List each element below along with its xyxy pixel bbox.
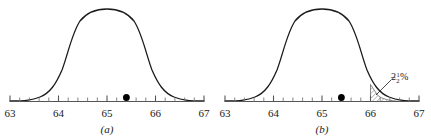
panel-a-caption: (a)	[101, 123, 114, 136]
x-tick-label-63-a: 63	[5, 107, 17, 119]
x-tick-label-63-b: 63	[220, 107, 232, 119]
annotation-label-b: 212%	[391, 71, 408, 84]
x-axis-a	[10, 96, 204, 102]
panel-b-caption: (b)	[316, 123, 329, 136]
x-tick-label-65-a: 65	[102, 107, 114, 119]
annotation-leader-line-b	[376, 80, 391, 95]
panel-b: 212% 63 64 65 66 67 (b)	[215, 0, 430, 137]
x-tick-label-66-b: 66	[365, 107, 377, 119]
normal-curve-a	[10, 9, 204, 101]
x-axis-b	[225, 96, 419, 102]
annotation-fraction-denominator: 2	[396, 77, 399, 84]
panel-a-plot: 63 64 65 66 67 (a)	[0, 0, 215, 137]
statistics-figure: 63 64 65 66 67 (a)	[0, 0, 431, 137]
x-tick-label-64-a: 64	[53, 107, 65, 119]
shaded-tail-region-b	[371, 85, 404, 102]
panel-b-plot: 212% 63 64 65 66 67 (b)	[215, 0, 431, 137]
x-tick-label-65-b: 65	[317, 107, 329, 119]
normal-curve-b	[225, 9, 419, 101]
x-tick-label-67-b: 67	[414, 107, 426, 119]
annotation-percent-sign: %	[400, 71, 408, 82]
x-tick-label-66-a: 66	[150, 107, 162, 119]
x-tick-label-64-b: 64	[268, 107, 280, 119]
panel-a: 63 64 65 66 67 (a)	[0, 0, 215, 137]
x-tick-label-67-a: 67	[199, 107, 211, 119]
data-point-marker-b	[338, 94, 345, 101]
data-point-marker-a	[123, 94, 130, 101]
